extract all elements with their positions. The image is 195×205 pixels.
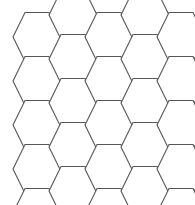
- hexagon-grid-svg: [0, 0, 195, 205]
- hexagon-grid-canvas: [0, 0, 195, 205]
- hexagon-cell-layer: [13, 0, 195, 205]
